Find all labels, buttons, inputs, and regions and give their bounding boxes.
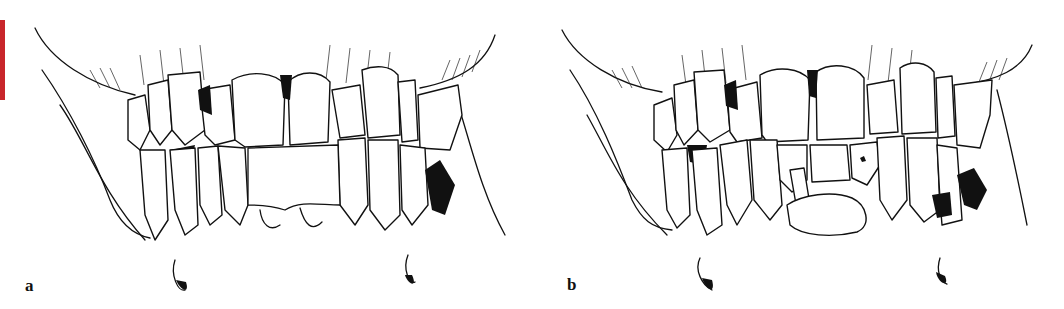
dentition-illustration-a bbox=[0, 0, 532, 309]
panel-b: b bbox=[532, 0, 1064, 309]
panel-label-a: a bbox=[25, 276, 34, 296]
dentition-illustration-b bbox=[532, 0, 1064, 309]
panel-a: a bbox=[0, 0, 532, 309]
panel-label-b: b bbox=[567, 275, 576, 295]
